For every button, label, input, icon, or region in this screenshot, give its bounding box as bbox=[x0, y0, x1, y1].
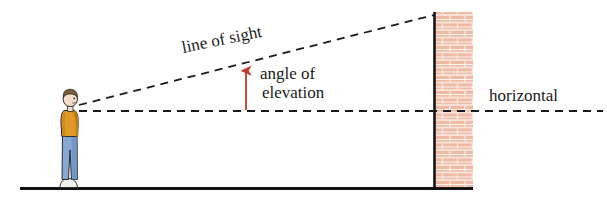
brick-wall bbox=[434, 12, 473, 190]
horizontal-label: horizontal bbox=[489, 86, 558, 105]
angle-of-elevation-line-1: angle of bbox=[260, 64, 315, 83]
angle-of-elevation-label: angle ofelevation bbox=[260, 64, 324, 102]
angle-of-elevation-line-2: elevation bbox=[262, 83, 324, 102]
jeans-shadow bbox=[72, 133, 78, 180]
eye bbox=[73, 97, 75, 99]
brick-wall-fill bbox=[434, 12, 473, 190]
angle-of-elevation-diagram: line of sight angle ofelevation horizont… bbox=[0, 0, 607, 202]
person-figure bbox=[60, 89, 78, 187]
